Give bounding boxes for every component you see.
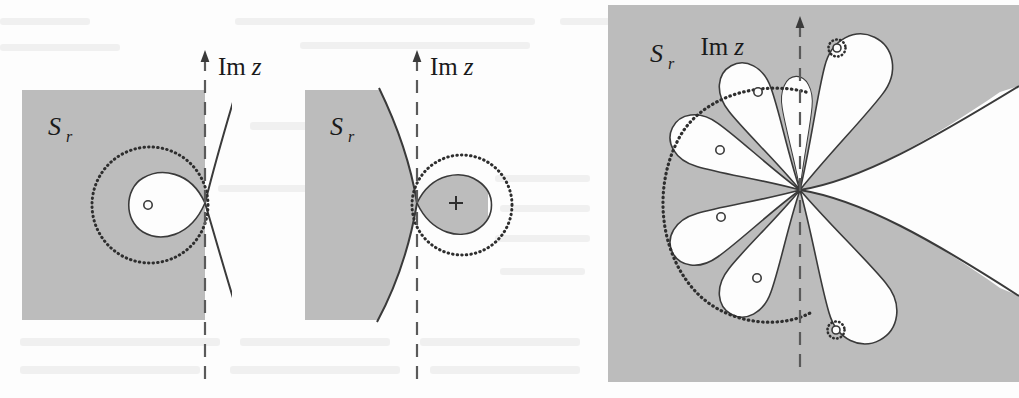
panel-middle-axis-label-var: z xyxy=(463,53,474,80)
panel-left-axis-arrowhead xyxy=(201,50,210,62)
panel-right-region-label: S xyxy=(650,39,663,68)
panel-right-marker-5-core xyxy=(833,44,841,52)
panel-right-axis-label: Imz xyxy=(700,33,744,60)
panel-right-marker-4 xyxy=(753,274,761,282)
panel-right-marker-2 xyxy=(716,146,724,154)
panel-left-region-label-subscript: r xyxy=(66,128,73,145)
panel-right-marker-6-core xyxy=(832,326,840,334)
panel-middle-region-label-subscript: r xyxy=(348,128,355,145)
three-panel-complex-plane-diagram: Imz S r xyxy=(0,0,1019,398)
panel-right-marker-3 xyxy=(717,213,725,221)
panel-middle-axis-label: Imz xyxy=(430,53,474,80)
panel-right-marker-1 xyxy=(754,88,762,96)
panel-middle-axis-label-op: Im xyxy=(430,53,458,80)
panel-left: Imz S r xyxy=(22,50,262,388)
panel-left-region-label: S xyxy=(48,112,61,141)
panel-middle-region-label: S xyxy=(330,112,343,141)
panel-right-axis-label-var: z xyxy=(733,33,744,60)
panel-left-pole-marker xyxy=(144,201,152,209)
panel-right: Imz S r xyxy=(608,5,1019,382)
panel-left-axis-label: Imz xyxy=(218,53,262,80)
panel-middle: Imz S r xyxy=(305,50,512,388)
panel-left-separatrix xyxy=(205,92,241,324)
panel-right-axis-label-op: Im xyxy=(700,33,728,60)
panel-right-region-label-subscript: r xyxy=(668,55,675,72)
panel-middle-axis-arrowhead xyxy=(413,50,422,62)
panel-left-axis-label-var: z xyxy=(251,53,262,80)
panel-left-axis-label-op: Im xyxy=(218,53,246,80)
figure-container: Imz S r xyxy=(0,0,1019,398)
